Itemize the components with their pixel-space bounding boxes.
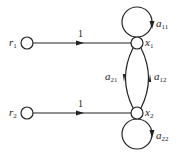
- arrow-down-icon: [150, 130, 155, 138]
- gain-a12: a12: [154, 71, 167, 84]
- self-loop-a11: [122, 7, 152, 37]
- node-x1: [131, 37, 143, 49]
- label-r1: r1: [9, 37, 17, 50]
- node-r1: [21, 37, 33, 49]
- self-loop-a22: [122, 119, 152, 149]
- gain-r1-x1: 1: [78, 29, 83, 39]
- graph-edges: [0, 0, 177, 159]
- label-r2: r2: [9, 107, 17, 120]
- gain-a11: a11: [156, 18, 168, 31]
- edge-a12: [141, 48, 149, 108]
- node-r2: [21, 107, 33, 119]
- gain-a21: a21: [105, 71, 118, 84]
- edge-a21: [126, 48, 134, 108]
- gain-r2-x2: 1: [78, 99, 83, 109]
- gain-a22: a22: [156, 130, 169, 143]
- signal-flow-graph: r1 r2 x1 x2 1 1 a11 a21 a12 a22: [0, 0, 177, 159]
- node-x2: [131, 107, 143, 119]
- label-x2: x2: [145, 107, 153, 120]
- arrow-right-icon: [76, 111, 84, 116]
- arrow-right-icon: [76, 41, 84, 46]
- label-x1: x1: [145, 37, 153, 50]
